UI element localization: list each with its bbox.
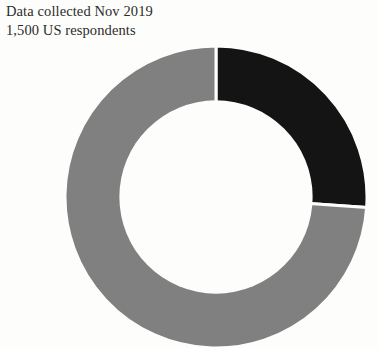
- annotation-line-sample-size: 1,500 US respondents: [6, 21, 153, 40]
- donut-chart-svg: [65, 46, 367, 348]
- annotation-line-collection-date: Data collected Nov 2019: [6, 2, 153, 21]
- chart-annotation: Data collected Nov 2019 1,500 US respond…: [6, 2, 153, 41]
- donut-chart: [65, 46, 367, 348]
- donut-center-hole: [119, 100, 312, 293]
